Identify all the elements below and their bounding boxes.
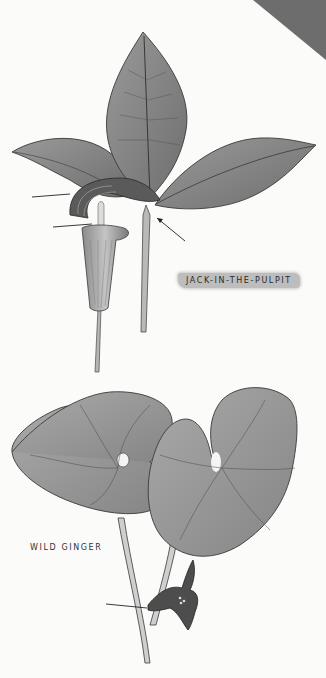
botanical-illustration <box>0 0 326 678</box>
pointer-arrow-spathe <box>32 194 70 197</box>
ginger-stalk-left <box>118 518 150 663</box>
leaf-stalk <box>141 205 150 332</box>
flower-stalk <box>95 308 101 372</box>
spathe-tube <box>82 225 129 311</box>
wild-ginger-drawing <box>12 388 297 663</box>
illustration-page: JACK-IN-THE-PULPIT WILD GINGER <box>0 0 326 678</box>
pointer-arrow-stalk <box>157 218 185 241</box>
ginger-stalk-right <box>150 535 178 625</box>
plant-label-jack-in-the-pulpit: JACK-IN-THE-PULPIT <box>178 273 300 288</box>
jack-in-the-pulpit-drawing <box>12 32 316 372</box>
plant-label-wild-ginger: WILD GINGER <box>30 543 102 552</box>
